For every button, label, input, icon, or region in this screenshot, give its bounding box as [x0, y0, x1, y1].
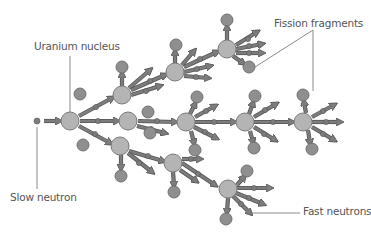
neutron	[320, 131, 325, 136]
fast-neutron-arrow	[173, 172, 174, 185]
neutron	[92, 131, 97, 136]
neutron	[246, 50, 251, 55]
fission-fragment	[221, 14, 233, 26]
neutron	[323, 119, 328, 124]
fission-fragment	[189, 144, 201, 156]
uranium-nucleus	[294, 113, 312, 131]
fission-fragments-leader-a	[255, 30, 313, 67]
fission-fragment	[191, 91, 203, 103]
neutron	[245, 36, 250, 41]
fission-fragment	[306, 143, 318, 155]
neutron	[251, 185, 256, 190]
neutron	[202, 129, 207, 134]
fission-fragment	[144, 127, 156, 139]
uranium-nucleus	[219, 180, 237, 198]
neutron	[188, 156, 193, 161]
neutron	[143, 88, 148, 93]
fission-fragment	[170, 39, 182, 51]
fission-fragment	[116, 61, 128, 73]
fast-neutron-arrow	[227, 198, 228, 212]
fission-fragment	[248, 142, 260, 154]
neutron	[197, 56, 202, 61]
neutron	[136, 160, 141, 165]
neutron	[194, 66, 199, 71]
fission-fragment	[168, 186, 180, 198]
uranium-nucleus	[166, 63, 184, 81]
neutron	[320, 108, 325, 113]
uranium-nucleus	[177, 113, 195, 131]
fission-fragments-label: Fission fragments	[274, 17, 363, 29]
fission-fragment	[220, 213, 232, 225]
neutron	[261, 131, 266, 136]
uranium-nucleus	[119, 112, 137, 130]
slow-neutron	[34, 118, 40, 124]
slow-neutron-dot	[34, 118, 40, 124]
fission-fragment	[77, 139, 89, 151]
neutron	[246, 195, 251, 200]
fission-fragment	[74, 88, 86, 100]
neutron	[262, 107, 267, 112]
uranium-nucleus-label: Uranium nucleus	[34, 40, 120, 52]
neutron	[211, 119, 216, 124]
neutron	[145, 153, 150, 158]
neutron	[154, 118, 159, 123]
fission-fragment	[249, 90, 261, 102]
neutron	[193, 74, 198, 79]
fission-fragment	[297, 89, 309, 101]
neutron	[195, 171, 200, 176]
neutron	[246, 43, 251, 48]
neutron	[270, 119, 275, 124]
uranium-nucleus	[111, 137, 129, 155]
uranium-nucleus	[236, 113, 254, 131]
uranium-nucleus	[61, 112, 79, 130]
uranium-nucleus	[164, 154, 182, 172]
neutron	[95, 118, 100, 123]
fission-fragment	[115, 170, 127, 182]
fission-fragment	[243, 61, 255, 73]
uranium-nucleus	[218, 40, 236, 58]
slow-neutron-label: Slow neutron	[10, 191, 77, 203]
neutron	[147, 78, 152, 83]
fission-fragment	[241, 165, 253, 177]
uranium-nucleus	[113, 86, 131, 104]
neutron	[203, 108, 208, 113]
fast-neutrons-label: Fast neutrons	[303, 205, 371, 217]
neutron	[93, 104, 98, 109]
neutron	[238, 201, 243, 206]
fission-fragment	[142, 106, 154, 118]
